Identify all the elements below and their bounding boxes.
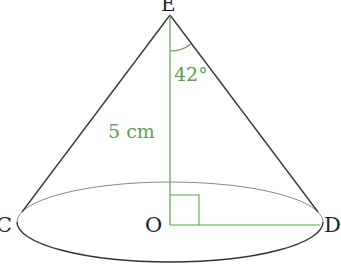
right-angle-marker [170,195,199,225]
point-label-o: O [145,213,162,237]
point-label-e: E [161,0,176,16]
apex-angle-arc [170,44,191,51]
base-ellipse-front [17,222,323,262]
point-label-d: D [324,213,341,237]
point-label-c: C [0,213,12,237]
angle-label: 42° [174,63,208,85]
height-label: 5 cm [108,120,155,142]
